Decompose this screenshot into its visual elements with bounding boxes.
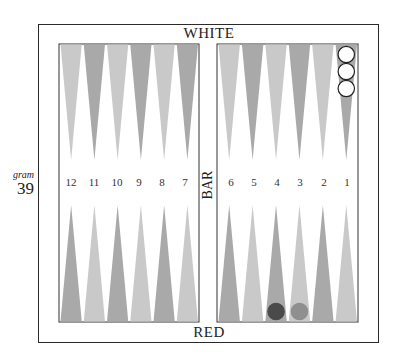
white-checker[interactable] <box>338 63 354 79</box>
point-number-11: 11 <box>84 176 104 188</box>
backgammon-board <box>0 0 395 359</box>
white-checker[interactable] <box>338 46 354 62</box>
point-number-10: 10 <box>107 176 127 188</box>
point-number-6: 6 <box>221 176 241 188</box>
point-number-3: 3 <box>290 176 310 188</box>
red-checker[interactable] <box>268 303 284 319</box>
point-number-2: 2 <box>314 176 334 188</box>
bar[interactable]: BAR <box>199 162 217 208</box>
point-number-12: 12 <box>61 176 81 188</box>
point-number-1: 1 <box>337 176 357 188</box>
point-number-8: 8 <box>152 176 172 188</box>
point-number-7: 7 <box>175 176 195 188</box>
bar-label: BAR <box>200 171 216 200</box>
point-number-5: 5 <box>244 176 264 188</box>
point-number-9: 9 <box>129 176 149 188</box>
red-checker[interactable] <box>291 303 307 319</box>
white-checker[interactable] <box>338 80 354 96</box>
point-number-4: 4 <box>267 176 287 188</box>
